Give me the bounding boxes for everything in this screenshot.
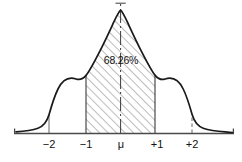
normal-distribution-figure: 68.26% −2 −1 μ +1 +2 <box>0 0 242 162</box>
axis-tick-label-mu: μ <box>118 138 124 150</box>
axis-tick-label-minus-1: −1 <box>80 138 93 150</box>
axis-tick-label-plus-1: +1 <box>151 138 164 150</box>
axis-tick-label-plus-2: +2 <box>186 138 199 150</box>
axis-tick-label-minus-2: −2 <box>43 138 56 150</box>
area-percentage-label: 68.26% <box>104 54 138 66</box>
